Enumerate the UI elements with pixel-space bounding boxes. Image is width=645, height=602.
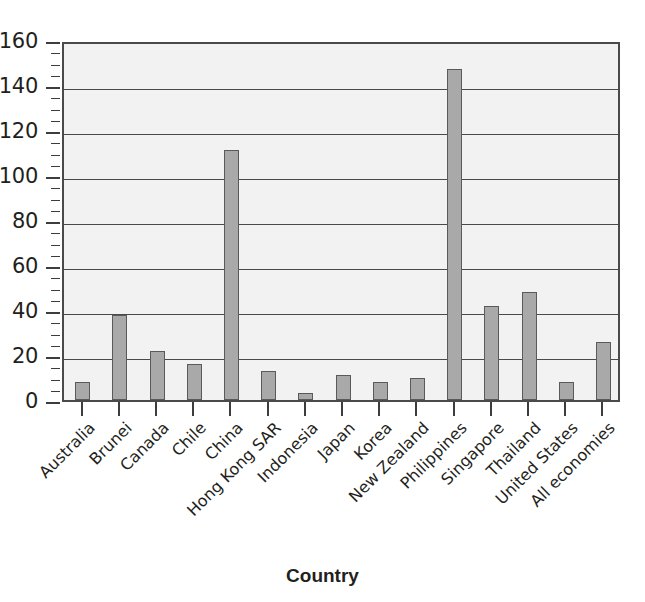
y-tick-minor: [51, 110, 60, 111]
y-tick-major: [46, 267, 60, 269]
bar: [150, 351, 165, 401]
x-tick: [378, 402, 380, 416]
bar: [75, 382, 90, 400]
y-tick-minor: [51, 301, 60, 302]
x-tick: [229, 402, 231, 416]
y-axis-label: 160: [0, 31, 38, 52]
bar-chart: 160140120100806040200 AustraliaBruneiCan…: [0, 0, 645, 602]
y-tick-major: [46, 87, 60, 89]
y-tick-minor: [51, 53, 60, 54]
bar: [522, 292, 537, 400]
bar: [596, 342, 611, 401]
y-tick-minor: [51, 143, 60, 144]
bar: [410, 378, 425, 401]
bar: [187, 364, 202, 400]
x-tick: [81, 402, 83, 416]
y-tick-minor: [51, 188, 60, 189]
x-tick: [527, 402, 529, 416]
x-tick: [304, 402, 306, 416]
y-tick-minor: [51, 121, 60, 122]
y-tick-major: [46, 312, 60, 314]
y-tick-minor: [51, 335, 60, 336]
y-tick-minor: [51, 200, 60, 201]
x-tick: [415, 402, 417, 416]
x-axis-category-label: Australia: [36, 419, 98, 481]
x-tick: [155, 402, 157, 416]
x-axis-category-label: Japan: [314, 419, 358, 463]
bar: [298, 393, 313, 400]
x-tick: [490, 402, 492, 416]
y-tick-minor: [51, 155, 60, 156]
x-tick: [192, 402, 194, 416]
x-tick: [341, 402, 343, 416]
y-tick-major: [46, 402, 60, 404]
y-axis-label: 100: [0, 166, 38, 187]
x-axis-title: Country: [0, 565, 645, 587]
x-tick: [453, 402, 455, 416]
y-tick-major: [46, 177, 60, 179]
y-tick-minor: [51, 98, 60, 99]
y-tick-minor: [51, 245, 60, 246]
y-axis-label: 0: [25, 391, 38, 412]
y-tick-minor: [51, 380, 60, 381]
bars-layer: [64, 44, 618, 400]
y-axis-label: 60: [12, 256, 38, 277]
y-tick-minor: [51, 211, 60, 212]
x-tick: [118, 402, 120, 416]
y-tick-minor: [51, 278, 60, 279]
x-tick: [564, 402, 566, 416]
bar: [559, 382, 574, 400]
bar: [261, 371, 276, 400]
bar: [336, 375, 351, 400]
y-axis-label: 80: [12, 211, 38, 232]
plot-area: [62, 42, 620, 402]
y-axis-label: 20: [12, 346, 38, 367]
y-tick-minor: [51, 233, 60, 234]
y-tick-minor: [51, 391, 60, 392]
y-tick-major: [46, 357, 60, 359]
y-tick-minor: [51, 65, 60, 66]
y-tick-major: [46, 42, 60, 44]
y-tick-minor: [51, 166, 60, 167]
x-tick: [601, 402, 603, 416]
bar: [224, 150, 239, 400]
y-tick-minor: [51, 290, 60, 291]
y-tick-minor: [51, 76, 60, 77]
y-axis-label: 40: [12, 301, 38, 322]
y-tick-major: [46, 132, 60, 134]
bar: [112, 315, 127, 401]
y-axis-label: 120: [0, 121, 38, 142]
y-tick-major: [46, 222, 60, 224]
y-axis-label: 140: [0, 76, 38, 97]
bar: [484, 306, 499, 401]
bar: [373, 382, 388, 400]
y-tick-minor: [51, 256, 60, 257]
y-tick-minor: [51, 346, 60, 347]
y-tick-minor: [51, 368, 60, 369]
y-tick-minor: [51, 323, 60, 324]
x-tick: [267, 402, 269, 416]
bar: [447, 69, 462, 400]
